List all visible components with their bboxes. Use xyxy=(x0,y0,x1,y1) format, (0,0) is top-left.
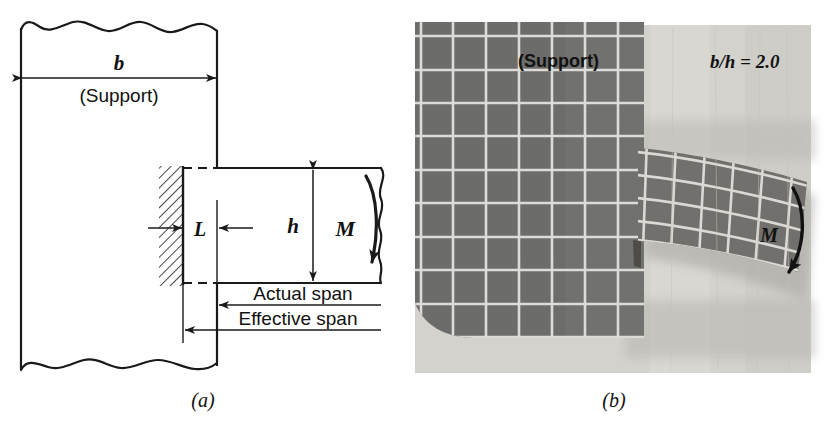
actual-span-label: Actual span xyxy=(253,283,352,304)
panel-a-svg: b (Support) xyxy=(0,0,415,432)
effective-span-label: Effective span xyxy=(238,308,357,329)
L-label: L xyxy=(193,218,206,240)
caption-b: (b) xyxy=(602,389,626,412)
photo-plate xyxy=(415,20,820,373)
support-label-a: (Support) xyxy=(79,85,158,106)
h-label: h xyxy=(287,214,299,238)
caption-a: (a) xyxy=(191,389,215,412)
panel-b-svg: (Support) b/h = 2.0 M (b) xyxy=(415,0,831,432)
panel-b-photograph: (Support) b/h = 2.0 M (b) xyxy=(415,0,831,432)
b-label: b xyxy=(114,51,125,75)
support-label-b: (Support) xyxy=(518,51,599,71)
M-label-b: M xyxy=(759,224,779,246)
moment-arrow-a xyxy=(366,176,376,262)
figure-root: b (Support) xyxy=(0,0,831,432)
photo-grain-overlay xyxy=(415,25,811,373)
fixed-support-hatching xyxy=(159,166,183,286)
panel-a-line-drawing: b (Support) xyxy=(0,0,415,432)
M-label-a: M xyxy=(334,216,356,241)
ratio-label: b/h = 2.0 xyxy=(710,51,780,72)
